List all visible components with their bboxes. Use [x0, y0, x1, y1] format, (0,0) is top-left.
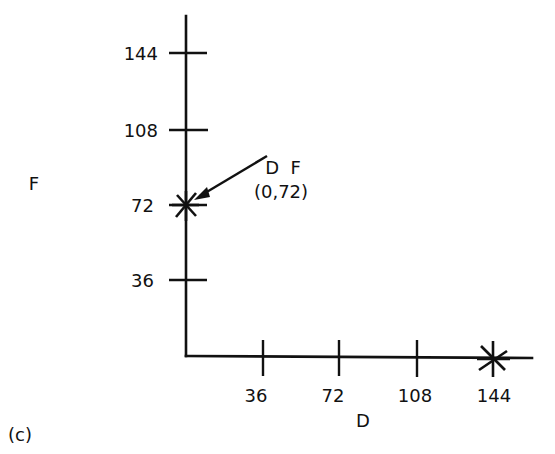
- chart-canvas: 144 108 72 36 36 72 108 144 D F (0,72) F…: [0, 0, 555, 454]
- panel-label: (c): [8, 424, 32, 445]
- star-marker-point: [172, 191, 199, 221]
- y-axis-label: F: [29, 173, 39, 194]
- y-tick-label: 144: [124, 43, 158, 64]
- x-tick-label: 144: [477, 385, 511, 406]
- x-axis-label: D: [356, 410, 370, 431]
- star-marker-point: [477, 341, 510, 377]
- annotation-value: (0,72): [254, 181, 308, 202]
- annotation-header: D F: [265, 157, 301, 178]
- y-tick-label: 36: [131, 270, 154, 291]
- x-tick-label: 108: [398, 385, 432, 406]
- x-tick-label: 72: [322, 385, 345, 406]
- y-tick-label: 72: [131, 195, 154, 216]
- x-tick-label: 36: [245, 385, 268, 406]
- y-tick-label: 108: [124, 120, 158, 141]
- y-ticks: [169, 53, 208, 280]
